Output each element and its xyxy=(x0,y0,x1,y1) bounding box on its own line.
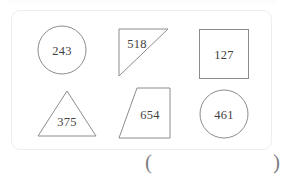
shape-circle-243: 243 xyxy=(37,25,87,75)
shape-triangle-375: 375 xyxy=(37,90,97,137)
shape-value-375: 375 xyxy=(57,116,76,129)
answer-row: ( ) xyxy=(0,150,285,176)
shapes-panel: 243 518 127 375 654 xyxy=(11,10,272,150)
open-paren: ( xyxy=(145,152,152,173)
shape-value-243: 243 xyxy=(52,45,71,58)
close-paren: ) xyxy=(273,152,280,173)
shape-value-127: 127 xyxy=(214,49,233,62)
clipped-text-line xyxy=(8,0,277,5)
page-canvas: 243 518 127 375 654 xyxy=(0,0,285,176)
triangle-icon xyxy=(37,90,97,137)
shape-value-518: 518 xyxy=(127,38,146,51)
shape-circle-461: 461 xyxy=(199,89,249,139)
shape-square-127: 127 xyxy=(199,29,249,79)
answer-blank[interactable] xyxy=(156,170,270,171)
shape-trapezoid-654: 654 xyxy=(118,87,171,139)
shape-value-654: 654 xyxy=(140,109,159,122)
shape-right-triangle-518: 518 xyxy=(118,28,169,77)
shape-value-461: 461 xyxy=(214,109,233,122)
right-triangle-icon xyxy=(118,28,169,77)
